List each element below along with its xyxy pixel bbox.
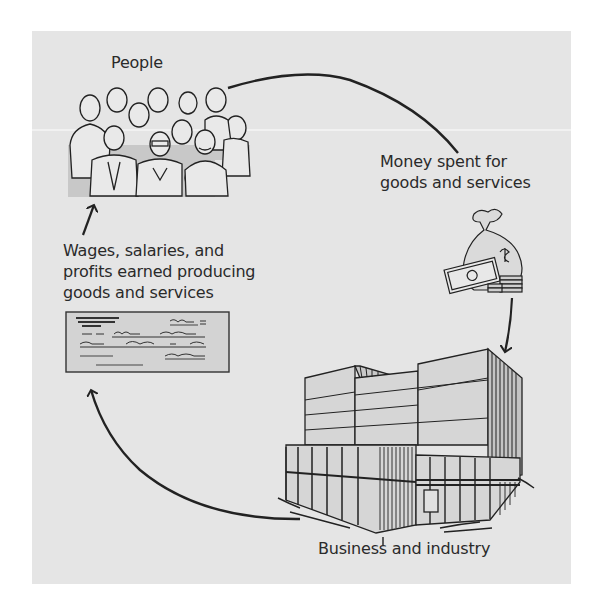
flow-arrow-business-to-wages: [91, 390, 300, 519]
flow-arrow-wages-to-people: [83, 205, 94, 235]
wages-label-line-2: profits earned producing: [63, 261, 255, 282]
business-label: Business and industry: [318, 538, 490, 559]
money-spent-label: Money spent for goods and services: [380, 151, 531, 193]
people-label: People: [111, 52, 163, 73]
money-bag-icon: [444, 209, 522, 293]
flow-arrow-people-to-money: [228, 75, 458, 153]
crowd-of-people-icon: [68, 88, 250, 197]
flow-arrow-money-to-business: [505, 298, 512, 352]
diagram-artwork: [0, 0, 596, 614]
wages-label-line-3: goods and services: [63, 282, 255, 303]
office-building-icon: [278, 349, 534, 545]
wages-label-line-1: Wages, salaries, and: [63, 240, 255, 261]
money-label-line-1: Money spent for: [380, 151, 531, 172]
paycheck-icon: [66, 312, 229, 372]
wages-label: Wages, salaries, and profits earned prod…: [63, 240, 255, 303]
business-label-text: Business and industry: [318, 538, 490, 559]
money-label-line-2: goods and services: [380, 172, 531, 193]
people-label-text: People: [111, 52, 163, 73]
